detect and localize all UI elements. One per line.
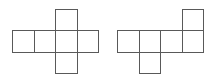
right-net-cell-row-4 (182, 31, 204, 53)
right-net-cell-row-2 (139, 31, 161, 53)
right-net-cell-row-1 (118, 31, 140, 53)
left-net-cell-row-1 (13, 31, 35, 53)
left-net-cell-row-3 (56, 31, 78, 53)
right-net-cell-row-3 (161, 31, 183, 53)
cube-nets-svg (0, 0, 215, 74)
left-net-cell-bottom (56, 52, 78, 74)
left-net-cell-row-4 (77, 31, 99, 53)
right-net-cell-bottom (139, 52, 161, 74)
diagram-canvas (0, 0, 215, 74)
left-net-cell-row-2 (34, 31, 56, 53)
right-net-cell-top (182, 9, 204, 31)
left-net-cell-top (56, 9, 78, 31)
